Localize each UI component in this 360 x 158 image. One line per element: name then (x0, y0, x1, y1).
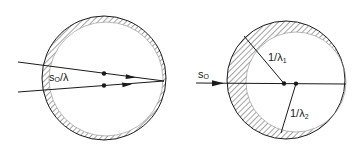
diagram-canvas: sO/λ sO 1/λ1 1/λ2 (0, 0, 360, 158)
left-lower-dot (102, 83, 106, 87)
center-2-dot (294, 81, 298, 85)
left-ewald-diagram: sO/λ (18, 16, 166, 140)
right-label-so: sO (198, 68, 210, 80)
left-label-so-lambda: sO/λ (49, 71, 69, 83)
right-beam-arrow-icon (212, 80, 224, 86)
center-1-dot (282, 81, 286, 85)
left-upper-dot (102, 71, 106, 75)
right-ewald-diagram: sO 1/λ1 1/λ2 (196, 21, 346, 139)
